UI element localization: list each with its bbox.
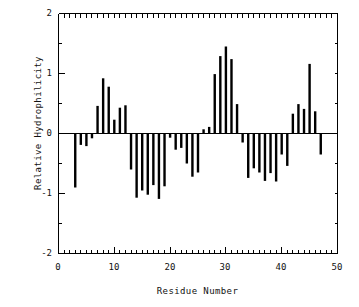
bar	[281, 134, 283, 155]
bar	[96, 106, 98, 134]
bar	[219, 56, 221, 133]
bar	[124, 105, 126, 133]
bar	[275, 134, 277, 182]
bar	[163, 134, 165, 187]
y-tick-label-neg1: -1	[30, 188, 52, 198]
bar	[85, 134, 87, 147]
y-tick-label-0: 0	[30, 128, 52, 138]
bar	[247, 134, 249, 178]
bar	[241, 134, 243, 143]
bar	[264, 134, 266, 181]
bar	[158, 134, 160, 199]
x-tick-label-30: 30	[213, 262, 237, 272]
bar	[297, 104, 299, 133]
x-tick-label-0: 0	[46, 262, 70, 272]
bar	[191, 134, 193, 177]
y-tick-label-neg2: -2	[30, 248, 52, 258]
bar	[286, 134, 288, 166]
x-tick-label-20: 20	[158, 262, 182, 272]
bar	[269, 134, 271, 174]
bar	[314, 111, 316, 133]
bar	[152, 134, 154, 186]
bar	[253, 134, 255, 169]
y-tick-label-2: 2	[30, 8, 52, 18]
x-tick-label-50: 50	[325, 262, 349, 272]
bar	[186, 134, 188, 164]
bar	[225, 47, 227, 134]
bar	[303, 109, 305, 134]
bar	[236, 104, 238, 133]
bar	[147, 134, 149, 195]
x-tick-label-10: 10	[102, 262, 126, 272]
bar	[113, 120, 115, 134]
bar	[208, 127, 210, 134]
bar	[308, 64, 310, 134]
x-axis-label: Residue Number	[58, 286, 337, 296]
bar	[119, 108, 121, 134]
bar	[135, 134, 137, 198]
y-tick-label-1: 1	[30, 68, 52, 78]
bar	[174, 134, 176, 150]
x-tick-label-40: 40	[269, 262, 293, 272]
bar	[80, 134, 82, 145]
bar	[197, 134, 199, 173]
bar	[74, 134, 76, 188]
bar	[292, 114, 294, 134]
bar	[91, 134, 93, 139]
plot-canvas	[0, 0, 359, 307]
hydrophilicity-plot-figure: Relative Hydrophilicity Residue Number 2…	[0, 0, 359, 307]
bar	[180, 134, 182, 148]
bar	[130, 134, 132, 170]
bar	[214, 74, 216, 133]
bar	[108, 87, 110, 134]
bar	[258, 134, 260, 173]
bar-series	[74, 47, 322, 199]
bar	[102, 78, 104, 133]
bar	[141, 134, 143, 191]
bar	[320, 134, 322, 155]
bar	[230, 59, 232, 133]
